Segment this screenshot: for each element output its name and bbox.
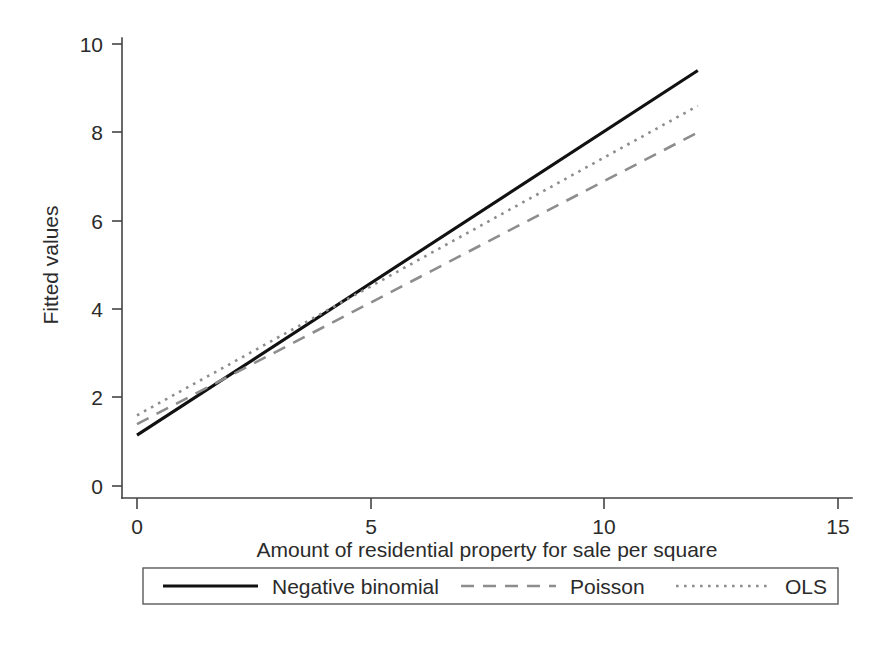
chart-legend: Negative binomial Poisson OLS	[143, 568, 838, 604]
x-tick-label-15: 15	[826, 515, 849, 538]
y-tick-label-0: 0	[91, 475, 103, 498]
x-tick-label-10: 10	[592, 515, 615, 538]
x-tick-label-0: 0	[131, 515, 143, 538]
y-tick-label-4: 4	[91, 298, 103, 321]
legend-label-negative-binomial: Negative binomial	[272, 575, 439, 598]
y-tick-label-6: 6	[91, 210, 103, 233]
series-line-poisson	[137, 132, 698, 424]
legend-label-poisson: Poisson	[570, 575, 645, 598]
y-tick-label-2: 2	[91, 386, 103, 409]
y-tick-label-8: 8	[91, 121, 103, 144]
y-axis: 10 8 6 4 2 0 Fitted values	[39, 33, 122, 498]
legend-label-ols: OLS	[785, 575, 827, 598]
y-tick-label-10: 10	[80, 33, 103, 56]
y-axis-title: Fitted values	[39, 205, 62, 324]
data-series-group	[137, 71, 698, 436]
chart-figure: 10 8 6 4 2 0 Fitted values 0 5 10 15 Amo…	[0, 0, 893, 645]
x-tick-label-5: 5	[365, 515, 377, 538]
fitted-values-line-chart: 10 8 6 4 2 0 Fitted values 0 5 10 15 Amo…	[0, 0, 893, 645]
x-axis: 0 5 10 15 Amount of residential property…	[122, 498, 852, 561]
series-line-ols	[137, 106, 698, 415]
x-axis-title: Amount of residential property for sale …	[256, 538, 717, 561]
